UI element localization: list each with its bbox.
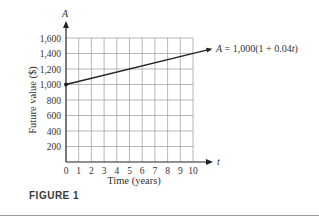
y-tick-label: 600	[47, 111, 62, 121]
y-tick-label: 800	[47, 96, 62, 106]
equation-annotation: A = 1,000(1 + 0.04t)	[215, 43, 298, 55]
y-tick-label: 1,000	[40, 80, 62, 90]
future-value-line	[66, 50, 208, 85]
x-tick-label: 8	[165, 166, 170, 176]
x-tick-label: 1	[76, 166, 81, 176]
x-axis-variable: t	[217, 156, 220, 167]
x-axis-arrow-icon	[206, 159, 213, 165]
divider	[0, 215, 319, 216]
y-axis-label: Future value ($)	[27, 66, 39, 134]
x-tick-label: 2	[89, 166, 94, 176]
y-tick-label: 1,200	[40, 65, 62, 75]
axes: A t	[61, 8, 220, 167]
equation-middle: = 1,000(1 + 0.04	[222, 43, 292, 55]
y-tick-label: 1,600	[40, 34, 62, 44]
x-axis-label: Time (years)	[107, 175, 161, 187]
y-axis-arrow-icon	[63, 21, 69, 28]
start-point-dot	[64, 83, 68, 87]
y-tick-label: 200	[47, 142, 62, 152]
y-tick-labels: 2004006008001,0001,2001,4001,600	[40, 34, 62, 153]
figure-caption: FIGURE 1	[29, 190, 79, 201]
x-tick-label: 3	[102, 166, 107, 176]
future-value-chart: A t 2004006008001,0001,2001,4001,600 012…	[0, 0, 319, 217]
grid-lines	[66, 38, 193, 162]
y-axis-variable: A	[61, 8, 69, 19]
x-tick-label: 9	[178, 166, 183, 176]
x-tick-label: 0	[64, 166, 69, 176]
x-tick-label: 10	[188, 166, 198, 176]
y-tick-label: 400	[47, 127, 62, 137]
equation-end: )	[295, 43, 298, 55]
y-tick-label: 1,400	[40, 49, 62, 59]
line-arrow-icon	[206, 48, 212, 53]
